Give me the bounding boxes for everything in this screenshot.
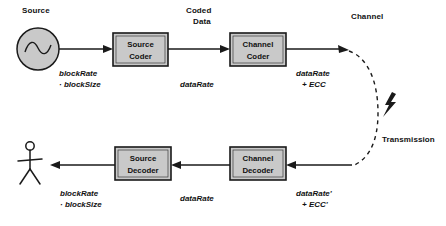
block-body (115, 147, 171, 180)
block-label-line2: Coder (247, 52, 270, 61)
block-body (230, 33, 286, 66)
block-label-line1: Channel (243, 154, 274, 163)
heading-coded-data-line2: Data (193, 17, 211, 26)
heading-channel: Channel (351, 12, 383, 21)
annotation-line1: dataRate (180, 80, 214, 89)
block-source-coder[interactable]: SourceCoder (113, 33, 168, 66)
arrow-source-decoder-to-receiver (50, 161, 115, 169)
annotation-line2: + ECC (296, 79, 330, 90)
transmission-channel-path (349, 51, 378, 166)
annotation-line2: + ECC' (296, 199, 332, 210)
annotation-line1: blockRate (60, 189, 98, 198)
annotation-line1: dataRate (296, 69, 330, 78)
arrow-channel-decoder-to-source-decoder (171, 161, 230, 169)
stick-figure-icon (18, 142, 42, 184)
heading-transmission: Transmission (382, 135, 435, 144)
block-channel-decoder[interactable]: ChannelDecoder (230, 147, 286, 180)
annotation-line1: blockRate (59, 69, 97, 78)
heading-source: Source (22, 6, 50, 15)
annotation-channel-rate: dataRate + ECC (296, 68, 330, 90)
block-label-line2: Coder (129, 52, 152, 61)
block-label-line2: Decoder (127, 166, 158, 175)
annotation-line2: · blockSize (60, 199, 102, 210)
arrow-channel-to-channel-decoder (286, 161, 352, 169)
block-body (230, 147, 286, 180)
arrow-source-coder-to-channel-coder (168, 45, 230, 53)
annotation-coded-rate: dataRate (180, 79, 214, 90)
annotation-line2: · blockSize (59, 79, 101, 90)
block-label-line1: Source (130, 154, 157, 163)
arrow-channel-coder-to-channel (286, 45, 349, 53)
block-body (113, 33, 168, 66)
sine-wave-circle-icon (17, 28, 59, 70)
annotation-line1: dataRate' (296, 189, 332, 198)
block-label-line2: Decoder (242, 166, 273, 175)
communication-system-diagram: SourceCoderChannelCoderSourceDecoderChan… (0, 0, 446, 226)
block-label-line1: Channel (243, 40, 274, 49)
heading-coded-data-line1: Coded (186, 6, 211, 15)
annotation-decoded-data-rate: dataRate (180, 193, 214, 204)
lightning-bolt-icon (383, 92, 396, 117)
annotation-received-rate: dataRate' + ECC' (296, 188, 332, 210)
annotation-line1: dataRate (180, 194, 214, 203)
block-source-decoder[interactable]: SourceDecoder (115, 147, 171, 180)
block-label-line1: Source (127, 40, 154, 49)
process-blocks: SourceCoderChannelCoderSourceDecoderChan… (113, 33, 286, 180)
arrow-source-to-source-coder (59, 45, 113, 53)
block-channel-coder[interactable]: ChannelCoder (230, 33, 286, 66)
annotation-source-rate: blockRate · blockSize (59, 68, 101, 90)
annotation-decoded-source-rate: blockRate · blockSize (60, 188, 102, 210)
